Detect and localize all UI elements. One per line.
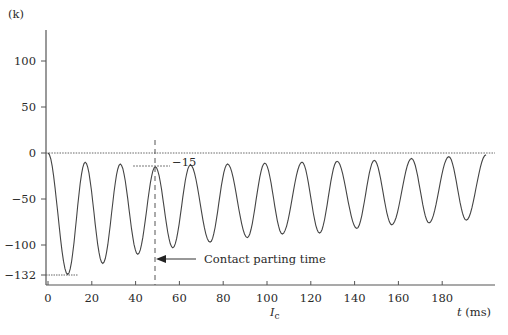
contact-parting-label: Contact parting time	[204, 252, 326, 266]
y-ticks: 100500−50−100−132	[4, 54, 46, 282]
x-tick-label: 160	[387, 291, 409, 305]
y-tick-label: 100	[14, 54, 36, 68]
x-tick-label: 100	[256, 291, 278, 305]
x-tick-label: 120	[300, 291, 322, 305]
x-tick-label: 180	[431, 291, 453, 305]
x-tick-label: 140	[344, 291, 366, 305]
current-label: Ic	[269, 305, 280, 321]
current-waveform-chart: (k) 100500−50−100−132 020406080100120140…	[0, 0, 508, 335]
x-tick-label: 20	[84, 291, 99, 305]
arrow-left-icon	[156, 255, 166, 263]
y-tick-label: 0	[29, 146, 36, 160]
y-axis-unit: (k)	[8, 7, 24, 21]
x-tick-label: 80	[216, 291, 231, 305]
y-tick-label: −100	[4, 238, 36, 252]
peak-value-label: −15	[172, 155, 196, 169]
y-tick-label: −50	[12, 192, 36, 206]
x-tick-label: 60	[172, 291, 187, 305]
x-tick-label: 0	[44, 291, 51, 305]
x-axis-unit: t (ms)	[457, 305, 491, 319]
y-tick-label: −132	[4, 268, 36, 282]
x-tick-label: 40	[128, 291, 143, 305]
y-tick-label: 50	[21, 100, 36, 114]
